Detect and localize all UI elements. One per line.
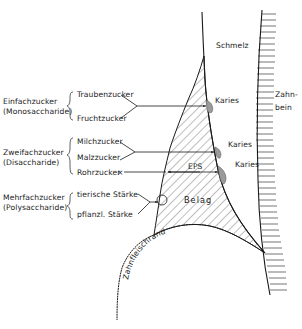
label-karies-3: Karies bbox=[235, 160, 259, 169]
label-karies-1: Karies bbox=[215, 96, 239, 105]
dentin-hatching bbox=[256, 10, 287, 295]
label-bein: bein bbox=[275, 103, 292, 112]
group-poly-name: Mehrfachzucker bbox=[3, 193, 66, 202]
group-di-latin: (Disaccharide) bbox=[3, 158, 59, 167]
label-zahn: Zahn- bbox=[275, 90, 298, 99]
tooth-plaque-diagram: × Einfachzucker (Monosaccharide) Trauben… bbox=[0, 0, 302, 329]
brace-di bbox=[67, 138, 73, 174]
sugar-rohrzucker: Rohrzucker bbox=[77, 168, 121, 177]
sugar-traubenzucker: Traubenzucker bbox=[76, 90, 134, 99]
sugar-pflanzl-staerke: pflanzl. Stärke bbox=[77, 210, 133, 219]
sugar-tierische-staerke: tierische Stärke bbox=[77, 190, 138, 199]
gum-margin-line bbox=[117, 235, 154, 320]
group-mono-name: Einfachzucker bbox=[3, 97, 58, 106]
sugar-milchzucker: Milchzucker bbox=[77, 137, 124, 146]
sugar-malzzucker: Malzzucker bbox=[77, 153, 121, 162]
group-di-name: Zweifachzucker bbox=[3, 148, 65, 157]
label-karies-2: Karies bbox=[228, 140, 252, 149]
brace-poly bbox=[67, 193, 73, 219]
label-schmelz: Schmelz bbox=[216, 41, 249, 50]
sugar-fruchtzucker: Fruchtzucker bbox=[77, 114, 128, 123]
group-poly-latin: (Polysaccharide) bbox=[3, 203, 67, 212]
plaque-region bbox=[154, 56, 265, 253]
group-mono-latin: (Monosaccharide) bbox=[3, 107, 72, 116]
label-eps: EPS bbox=[188, 162, 203, 171]
label-belag: Belag bbox=[184, 195, 212, 205]
